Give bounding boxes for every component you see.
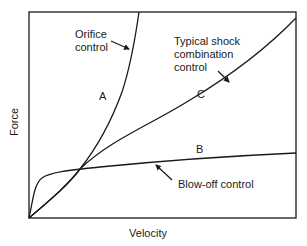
curve-b-blowoff: [29, 153, 296, 218]
orifice-label-line1: Orifice: [75, 28, 107, 40]
combination-label-line3: control: [174, 61, 207, 73]
combination-label-line2: combination: [174, 48, 233, 60]
curve-a-marker: A: [99, 90, 107, 102]
orifice-arrow-icon: [111, 41, 129, 49]
plot-frame: [29, 12, 296, 218]
x-axis-label: Velocity: [129, 227, 167, 239]
curve-c-marker: C: [197, 88, 205, 100]
y-axis-label: Force: [8, 108, 20, 136]
blowoff-label: Blow-off control: [178, 178, 254, 190]
blowoff-arrow-icon: [156, 165, 172, 180]
curve-c-combination: [29, 18, 296, 218]
orifice-label-line2: control: [75, 41, 108, 53]
curve-b-marker: B: [196, 143, 203, 155]
combination-label-line1: Typical shock: [174, 35, 241, 47]
diagram-canvas: Orifice control Typical shock combinatio…: [0, 0, 307, 246]
force-velocity-diagram: Orifice control Typical shock combinatio…: [0, 0, 307, 246]
